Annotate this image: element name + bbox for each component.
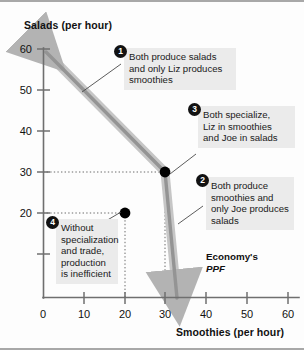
callout-4-line-2: specialization: [61, 234, 113, 246]
y-tick-label-60: 60: [10, 43, 32, 55]
callout-2-line-3: only Joe produces: [211, 203, 289, 215]
callout-4-line-4: production: [61, 257, 113, 269]
x-tick-label-20: 20: [114, 308, 136, 320]
y-tick-label-30: 30: [10, 166, 32, 178]
x-tick-label-40: 40: [195, 308, 217, 320]
callout-box-4: Without specialization and trade, produc…: [56, 219, 118, 284]
ppf-label-line-1: Economy's: [206, 251, 258, 263]
ppf-label-line-2: PPF: [206, 263, 225, 274]
x-tick-label-50: 50: [236, 308, 258, 320]
y-tick-label-20: 20: [10, 207, 32, 219]
callout-badge-1: 1: [114, 45, 127, 58]
callout-2-line-4: salads: [211, 215, 289, 227]
leader-1: [82, 64, 121, 92]
callout-box-3: Both specialize, Liz in smoothies and Jo…: [198, 106, 295, 148]
ppf-curve-label: Economy's PPF: [206, 251, 258, 274]
marker-specialization-point: [160, 167, 171, 178]
callout-1-line-2: and only Liz produces: [129, 63, 231, 75]
x-axis-title: Smoothies (per hour): [176, 326, 284, 338]
y-axis-title: Salads (per hour): [24, 19, 112, 31]
callout-badge-2: 2: [196, 174, 209, 187]
callout-4-line-3: and trade,: [61, 245, 113, 257]
callout-3-line-3: and Joe in salads: [203, 132, 290, 144]
callout-3-line-2: Liz in smoothies: [203, 121, 290, 133]
x-tick-label-30: 30: [154, 308, 176, 320]
x-tick-label-0: 0: [32, 308, 54, 320]
marker-inefficient-point: [120, 208, 131, 219]
callout-badge-4: 4: [46, 216, 59, 229]
callout-1-line-1: Both produce salads: [129, 51, 231, 63]
callout-3-line-1: Both specialize,: [203, 109, 290, 121]
figure-container: Salads (per hour) Smoothies (per hour) 6…: [0, 0, 304, 350]
x-tick-label-10: 10: [73, 308, 95, 320]
y-tick-label-50: 50: [10, 84, 32, 96]
leader-2: [178, 206, 203, 224]
callout-1-line-3: smoothies: [129, 74, 231, 86]
callout-badge-3: 3: [188, 103, 201, 116]
y-tick-label-40: 40: [10, 125, 32, 137]
callout-box-1: Both produce salads and only Liz produce…: [124, 48, 236, 90]
callout-2-line-1: Both produce: [211, 180, 289, 192]
callout-box-2: Both produce smoothies and only Joe prod…: [206, 177, 294, 230]
callout-2-line-2: smoothies and: [211, 192, 289, 204]
callout-4-line-1: Without: [61, 222, 113, 234]
x-tick-label-60: 60: [277, 308, 299, 320]
leader-3: [170, 154, 196, 174]
callout-4-line-5: is inefficient: [61, 268, 113, 280]
